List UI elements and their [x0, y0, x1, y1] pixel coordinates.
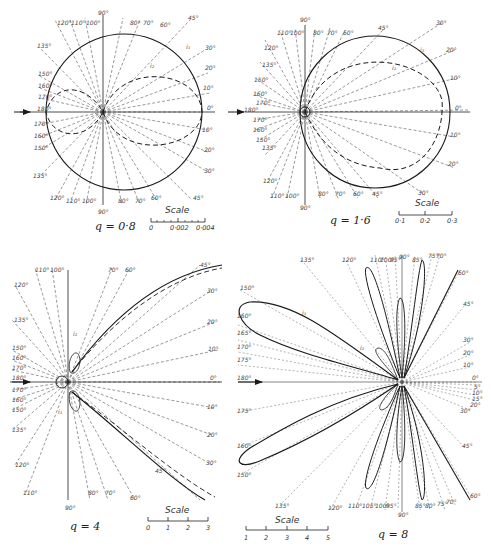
svg-text:80°: 80°	[88, 489, 99, 496]
panel-q08: i₁ i₂ 90° 80° 70° 60° 45° 30° 20° 10° 0°…	[14, 9, 244, 232]
svg-text:30°: 30°	[206, 459, 217, 466]
curve-label-i1: i₁	[186, 43, 191, 50]
curve-label-i1: i₁	[302, 309, 307, 316]
svg-text:10°: 10°	[208, 345, 219, 352]
curve-label-i2: i₂	[360, 344, 365, 351]
svg-text:135°: 135°	[262, 61, 276, 68]
svg-text:170°: 170°	[237, 343, 251, 350]
svg-text:30°: 30°	[418, 189, 429, 196]
svg-text:160°: 160°	[38, 82, 52, 89]
svg-text:110°: 110°	[35, 266, 49, 273]
svg-text:30°: 30°	[436, 19, 447, 26]
svg-text:70°: 70°	[327, 29, 338, 36]
svg-text:70°: 70°	[108, 266, 119, 273]
svg-text:10°: 10°	[203, 84, 214, 91]
svg-text:100°: 100°	[290, 29, 304, 36]
angle-lines	[255, 22, 468, 198]
svg-text:2: 2	[264, 534, 268, 542]
svg-text:0: 0	[149, 224, 153, 232]
svg-text:160°: 160°	[237, 312, 251, 319]
svg-text:150°: 150°	[34, 144, 48, 151]
svg-text:160°: 160°	[237, 442, 251, 449]
angle-lines	[12, 265, 220, 500]
svg-text:10°: 10°	[450, 131, 461, 138]
curve-i1-upper-lobe	[239, 302, 398, 380]
svg-text:20°: 20°	[448, 160, 459, 167]
curve-i2	[305, 62, 442, 170]
scale-title-q8: Scale	[275, 515, 299, 525]
svg-text:135°: 135°	[33, 172, 47, 179]
svg-text:0°: 0°	[472, 374, 479, 381]
scale-title-q4: Scale	[165, 505, 189, 515]
svg-text:80°: 80°	[313, 29, 324, 36]
svg-text:60°: 60°	[160, 21, 171, 28]
svg-text:60°: 60°	[353, 190, 364, 197]
svg-text:120°: 120°	[328, 504, 342, 511]
svg-text:180°: 180°	[244, 106, 258, 113]
svg-text:170°: 170°	[38, 93, 52, 100]
svg-text:85°: 85°	[412, 256, 423, 263]
svg-text:90°: 90°	[300, 204, 311, 211]
panel-label-q8: q = 8	[378, 528, 408, 541]
svg-text:150°: 150°	[12, 344, 26, 351]
svg-text:100°: 100°	[82, 197, 96, 204]
svg-text:20°: 20°	[207, 318, 218, 325]
angle-labels: 90° 110° 100° 80° 70° 60° 45° 30° 20° 10…	[244, 16, 462, 211]
svg-text:45°: 45°	[463, 300, 474, 307]
svg-text:110°: 110°	[348, 502, 362, 509]
svg-text:90°: 90°	[98, 9, 109, 16]
svg-text:0·2: 0·2	[420, 217, 430, 225]
svg-text:95°: 95°	[390, 256, 401, 263]
svg-text:30°: 30°	[205, 44, 216, 51]
panel-label-q08: q = 0·8	[95, 220, 136, 233]
svg-text:30°: 30°	[207, 287, 218, 294]
svg-text:170°: 170°	[253, 116, 267, 123]
svg-text:45°: 45°	[378, 24, 389, 31]
svg-text:150°: 150°	[254, 76, 268, 83]
svg-text:70°: 70°	[135, 197, 146, 204]
svg-text:20°: 20°	[470, 401, 481, 408]
curve-label-i1: i₁	[58, 408, 63, 415]
svg-text:80°: 80°	[318, 190, 329, 197]
svg-text:160°: 160°	[34, 132, 48, 139]
svg-text:100°: 100°	[285, 192, 299, 199]
svg-text:60°: 60°	[458, 269, 469, 276]
scale-bar: 0 0·002 0·004	[149, 218, 215, 232]
angle-lines	[38, 18, 210, 205]
svg-text:70°: 70°	[335, 190, 346, 197]
svg-text:10°: 10°	[207, 403, 218, 410]
curve-label-i1: i₁	[420, 46, 425, 53]
svg-text:160°: 160°	[12, 396, 26, 403]
svg-text:60°: 60°	[151, 194, 162, 201]
svg-text:120°: 120°	[263, 177, 277, 184]
angle-lines	[238, 255, 478, 510]
svg-text:120°: 120°	[264, 44, 278, 51]
svg-text:20°: 20°	[204, 146, 215, 153]
svg-text:5: 5	[326, 534, 330, 542]
svg-text:80°: 80°	[130, 19, 141, 26]
panel-q16: i₁ i₂ 90° 110° 100° 80° 70° 60° 45° 30° …	[244, 16, 470, 225]
svg-text:70°: 70°	[436, 252, 447, 259]
svg-text:2: 2	[186, 524, 190, 532]
svg-text:110°: 110°	[66, 197, 80, 204]
svg-text:10°: 10°	[202, 126, 213, 133]
scale-bar: 1 2 3 4 5	[244, 526, 330, 542]
svg-text:120°: 120°	[57, 19, 71, 26]
svg-text:70°: 70°	[143, 19, 154, 26]
svg-text:20°: 20°	[207, 431, 218, 438]
svg-text:150°: 150°	[240, 284, 254, 291]
svg-text:45°: 45°	[155, 467, 166, 474]
svg-text:160°: 160°	[253, 126, 267, 133]
svg-text:0°: 0°	[207, 104, 214, 111]
svg-text:20°: 20°	[205, 64, 216, 71]
svg-text:95°: 95°	[386, 502, 397, 509]
scale-title-q08: Scale	[165, 205, 189, 215]
svg-text:20°: 20°	[463, 349, 474, 356]
svg-text:110°: 110°	[23, 489, 37, 496]
svg-text:60°: 60°	[343, 29, 354, 36]
svg-text:0·004: 0·004	[196, 224, 215, 232]
svg-text:90°: 90°	[98, 208, 109, 215]
svg-text:10°: 10°	[450, 74, 461, 81]
svg-text:180°: 180°	[237, 374, 251, 381]
svg-text:1: 1	[244, 534, 248, 542]
